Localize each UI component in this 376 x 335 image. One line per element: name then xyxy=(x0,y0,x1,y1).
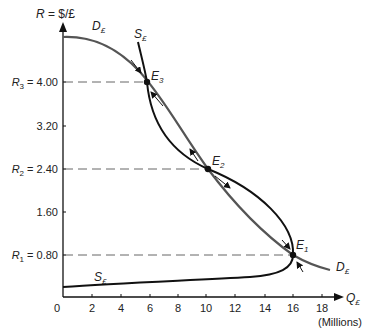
svg-text:8: 8 xyxy=(175,302,181,314)
x-tick-labels: 0 2 4 6 8 10 12 14 16 18 xyxy=(54,302,328,314)
supply-curve xyxy=(63,42,293,287)
svg-text:6: 6 xyxy=(147,302,153,314)
x-axis-label: Q£ xyxy=(346,291,360,307)
arrow-icon xyxy=(297,262,303,272)
equilibrium-point-e1 xyxy=(290,252,296,258)
svg-text:10: 10 xyxy=(200,302,212,314)
supply-label-top: S£ xyxy=(134,27,147,43)
equilibrium-point-e2 xyxy=(205,166,211,172)
r2-label: R2 = 2.40 xyxy=(12,163,58,178)
y-axis-label: R = $/£ xyxy=(36,7,75,21)
supply-label-bottom: S£ xyxy=(94,270,107,286)
exchange-rate-chart: R = $/£ Q£ (Millions) 0 2 4 6 8 10 12 14… xyxy=(0,0,376,335)
e1-label: E1 xyxy=(296,238,308,254)
svg-text:16: 16 xyxy=(287,302,299,314)
svg-text:1.60: 1.60 xyxy=(37,206,58,218)
equilibrium-dashed-lines xyxy=(64,82,293,255)
e3-label: E3 xyxy=(151,69,164,85)
svg-text:18: 18 xyxy=(316,302,328,314)
r1-label: R1 = 0.80 xyxy=(12,249,58,264)
svg-text:14: 14 xyxy=(259,302,271,314)
y-tick-labels: R1 = 0.80 1.60 R2 = 2.40 3.20 R3 = 4.00 xyxy=(12,76,58,264)
demand-label-bottom: D£ xyxy=(336,260,350,276)
arrow-icon xyxy=(131,60,141,73)
svg-text:12: 12 xyxy=(229,302,241,314)
svg-text:0: 0 xyxy=(54,302,60,314)
r3-label: R3 = 4.00 xyxy=(12,76,58,91)
demand-label-top: D£ xyxy=(92,19,106,35)
svg-text:2: 2 xyxy=(89,302,95,314)
svg-text:4: 4 xyxy=(118,302,124,314)
x-axis-arrow-icon xyxy=(334,293,344,301)
svg-text:3.20: 3.20 xyxy=(37,120,58,132)
e2-label: E2 xyxy=(212,154,225,170)
y-axis-arrow-icon xyxy=(59,22,67,32)
equilibrium-point-e3 xyxy=(144,79,150,85)
x-axis-units: (Millions) xyxy=(318,316,362,328)
